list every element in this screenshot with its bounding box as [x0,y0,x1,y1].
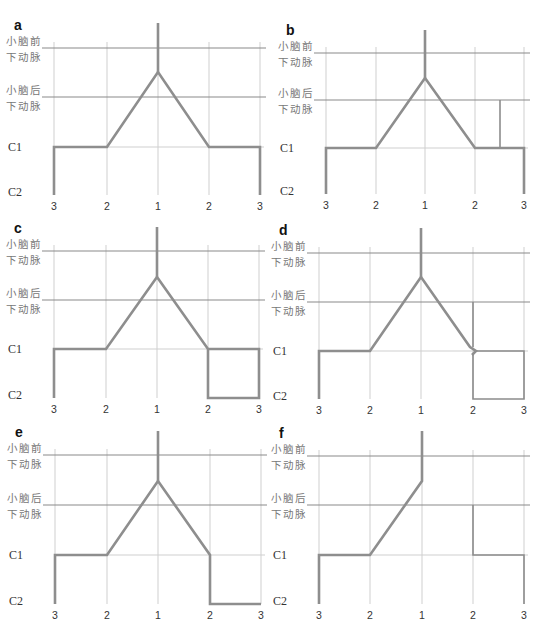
c1-label: C1 [273,344,287,358]
x-tick-label: 3 [257,200,263,212]
c2-label: C2 [273,594,287,608]
pica-label-line1: 小脑后 [271,492,307,504]
x-tick-label: 2 [470,609,476,621]
aica-label-line2: 下动脉 [6,254,42,266]
c1-label: C1 [273,548,287,562]
c2-label: C2 [280,184,294,198]
vessel-branch-thin [473,505,524,604]
aica-label-line2: 下动脉 [7,458,43,470]
x-tick-label: 2 [205,403,211,415]
x-tick-label: 3 [258,609,264,621]
c2-label: C2 [8,388,22,402]
panel-f: f小脑前下动脉小脑后下动脉C1C232123 [271,425,530,621]
panel-c: c小脑前下动脉小脑后下动脉C1C232123 [6,220,265,415]
aica-label-line2: 下动脉 [271,459,307,471]
x-tick-label: 1 [155,200,161,212]
x-tick-label: 1 [154,403,160,415]
aica-label-line2: 下动脉 [271,256,307,268]
c1-label: C1 [8,342,22,356]
x-tick-label: 3 [52,609,58,621]
panel-letter: b [286,22,295,38]
panel-letter: f [279,425,284,441]
x-tick-label: 1 [422,199,428,211]
panel-d: d小脑前下动脉小脑后下动脉C1C232123 [271,222,530,416]
panel-letter: d [279,222,288,238]
panel-a: a小脑前下动脉小脑后下动脉C1C232123 [6,17,266,212]
x-tick-label: 3 [316,404,322,416]
vessel-path-thick [319,277,476,399]
x-tick-label: 2 [104,200,110,212]
c2-label: C2 [273,389,287,403]
aica-label-line1: 小脑前 [278,40,314,52]
vertebral-artery-variation-figure: a小脑前下动脉小脑后下动脉C1C232123b小脑前下动脉小脑后下动脉C1C23… [0,0,542,631]
x-tick-label: 2 [103,403,109,415]
pica-label-line1: 小脑后 [6,287,42,299]
c1-label: C1 [8,140,22,154]
aica-label-line1: 小脑前 [7,442,43,454]
x-tick-label: 2 [207,609,213,621]
panel-b: b小脑前下动脉小脑后下动脉C1C232123 [278,22,530,211]
x-tick-label: 2 [470,404,476,416]
x-tick-label: 2 [472,199,478,211]
x-tick-label: 2 [104,609,110,621]
x-tick-label: 3 [256,403,262,415]
pica-label-line2: 下动脉 [6,100,42,112]
x-tick-label: 3 [51,200,57,212]
pica-label-line1: 小脑后 [6,84,42,96]
aica-label-line1: 小脑前 [271,240,307,252]
pica-label-line2: 下动脉 [271,508,307,520]
x-tick-label: 3 [316,609,322,621]
x-tick-label: 3 [521,609,527,621]
x-tick-label: 2 [367,404,373,416]
aica-label-line2: 下动脉 [278,56,314,68]
pica-label-line2: 下动脉 [278,103,314,115]
pica-label-line1: 小脑后 [271,289,307,301]
x-tick-label: 1 [155,609,161,621]
panel-letter: e [15,424,23,440]
aica-label-line2: 下动脉 [6,51,42,63]
x-tick-label: 3 [51,403,57,415]
pica-label-line2: 下动脉 [271,305,307,317]
aica-label-line1: 小脑前 [6,238,42,250]
pica-label-line1: 小脑后 [278,87,314,99]
pica-label-line2: 下动脉 [6,303,42,315]
x-tick-label: 2 [367,609,373,621]
aica-label-line1: 小脑前 [6,35,42,47]
vessel-path-thick [54,72,260,195]
panel-e: e小脑前下动脉小脑后下动脉C1C232123 [7,424,267,621]
x-tick-label: 2 [373,199,379,211]
panel-letter: c [14,220,22,236]
vessel-branch-thin [473,351,524,399]
x-tick-label: 3 [521,199,527,211]
x-tick-label: 2 [206,200,212,212]
panel-letter: a [14,17,22,33]
x-tick-label: 1 [418,404,424,416]
x-tick-label: 3 [323,199,329,211]
c1-label: C1 [280,141,294,155]
x-tick-label: 1 [419,609,425,621]
aica-label-line1: 小脑前 [271,443,307,455]
c2-label: C2 [9,594,23,608]
x-tick-label: 3 [521,404,527,416]
pica-label-line1: 小脑后 [7,492,43,504]
c1-label: C1 [9,548,23,562]
pica-label-line2: 下动脉 [7,508,43,520]
c2-label: C2 [8,185,22,199]
